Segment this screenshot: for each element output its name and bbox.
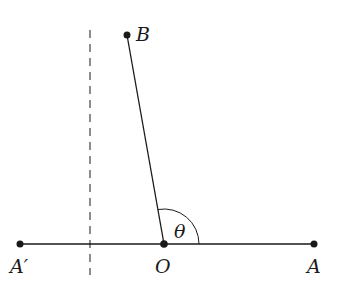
label-a: A	[305, 255, 321, 277]
geometry-diagram: B θ A′ O A	[0, 0, 342, 291]
point-a	[311, 241, 318, 248]
label-theta: θ	[174, 220, 186, 242]
point-o	[160, 240, 168, 248]
segment-o-b	[127, 35, 164, 244]
label-o: O	[155, 255, 171, 277]
point-a-prime	[17, 241, 24, 248]
point-b	[124, 32, 131, 39]
label-a-prime: A′	[8, 255, 29, 277]
label-b: B	[135, 23, 150, 45]
